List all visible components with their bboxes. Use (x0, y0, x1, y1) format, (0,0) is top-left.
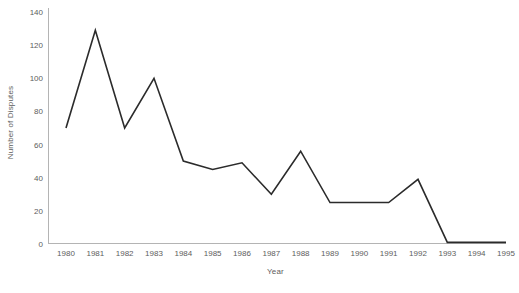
x-axis-group (48, 244, 506, 245)
x-axis-tick-label: 1987 (262, 249, 280, 258)
y-axis-tick-label: 0 (39, 240, 43, 249)
x-axis-tick-label: 1989 (321, 249, 339, 258)
data-line-series-1 (66, 30, 506, 242)
y-axis-tick-label: 20 (34, 206, 43, 215)
chart-figure: Number of Disputes 020406080100120140 19… (0, 0, 519, 293)
x-axis-tick-label: 1984 (174, 249, 192, 258)
y-axis-tick-label: 60 (34, 140, 43, 149)
x-axis-tick-label: 1994 (468, 249, 486, 258)
x-axis-tick-label: 1991 (380, 249, 398, 258)
x-axis-tick-label: 1985 (204, 249, 222, 258)
y-axis-tick-label: 120 (30, 41, 43, 50)
x-axis-tick-label: 1986 (233, 249, 251, 258)
y-axis-tick-label: 100 (30, 74, 43, 83)
x-axis-tick-label: 1990 (350, 249, 368, 258)
x-axis-tick-label: 1988 (292, 249, 310, 258)
y-axis-tick-label: 140 (30, 8, 43, 17)
line-chart-svg (48, 8, 506, 244)
x-axis-title: Year (48, 267, 503, 276)
y-axis-tick-label: 80 (34, 107, 43, 116)
x-axis-tick-label: 1982 (116, 249, 134, 258)
y-axis-title: Number of Disputes (0, 0, 22, 245)
plot-area: 020406080100120140 198019811982198319841… (48, 8, 506, 244)
y-axis-group (48, 8, 49, 244)
x-axis-tick-label: 1980 (57, 249, 75, 258)
x-axis-tick-label: 1981 (86, 249, 104, 258)
x-axis-tick-label: 1992 (409, 249, 427, 258)
x-axis-tick-label: 1995 (497, 249, 515, 258)
y-axis-tick-label: 40 (34, 173, 43, 182)
x-axis-tick-label: 1993 (438, 249, 456, 258)
x-axis-tick-label: 1983 (145, 249, 163, 258)
y-axis-title-text: Number of Disputes (7, 86, 16, 159)
